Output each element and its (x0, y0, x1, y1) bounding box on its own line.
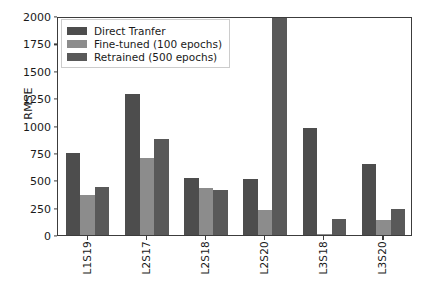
y-tick-label: 1250 (11, 93, 51, 106)
bar (272, 17, 287, 235)
bar (125, 94, 140, 235)
bar (199, 188, 214, 235)
bar (66, 153, 81, 235)
bar (243, 179, 258, 235)
legend-item: Fine-tuned (100 epochs) (67, 37, 222, 50)
x-tick-label: L3S18 (317, 241, 329, 275)
y-tick-label: 500 (11, 175, 51, 188)
bar (376, 220, 391, 235)
y-tick-label: 250 (11, 202, 51, 215)
legend-item: Direct Tranfer (67, 24, 222, 37)
bar (303, 128, 318, 235)
bar-chart-figure: RMSE 025050075010001250150017502000 L1S1… (0, 0, 435, 282)
x-tick-mark (205, 236, 206, 240)
legend-swatch (67, 40, 87, 48)
y-tick-label: 1500 (11, 65, 51, 78)
y-tick-label: 0 (11, 230, 51, 243)
bar (391, 209, 406, 235)
legend-swatch (67, 27, 87, 35)
x-tick-mark (87, 236, 88, 240)
y-tick-label: 1000 (11, 120, 51, 133)
bar (362, 164, 377, 235)
bar (184, 178, 199, 235)
x-tick-label: L2S18 (199, 241, 211, 275)
bar (332, 219, 347, 235)
y-tick-label: 2000 (11, 11, 51, 24)
bar (258, 210, 273, 235)
chart-legend: Direct TranferFine-tuned (100 epochs)Ret… (61, 19, 230, 68)
legend-item: Retrained (500 epochs) (67, 50, 222, 63)
legend-label: Fine-tuned (100 epochs) (94, 38, 222, 50)
y-tick-label: 750 (11, 147, 51, 160)
legend-swatch (67, 53, 87, 61)
bar (213, 190, 228, 235)
bar (95, 187, 110, 235)
x-tick-label: L1S19 (81, 241, 93, 275)
x-tick-label: L3S20 (376, 241, 388, 275)
legend-label: Direct Tranfer (94, 25, 166, 37)
bar (80, 195, 95, 236)
legend-label: Retrained (500 epochs) (94, 51, 217, 63)
x-tick-label: L2S17 (140, 241, 152, 275)
x-tick-label: L2S20 (258, 241, 270, 275)
bar (317, 234, 332, 235)
bar (154, 139, 169, 235)
bar (140, 158, 155, 235)
y-tick-label: 1750 (11, 38, 51, 51)
x-tick-mark (323, 236, 324, 240)
x-tick-mark (264, 236, 265, 240)
x-tick-mark (382, 236, 383, 240)
x-tick-mark (146, 236, 147, 240)
